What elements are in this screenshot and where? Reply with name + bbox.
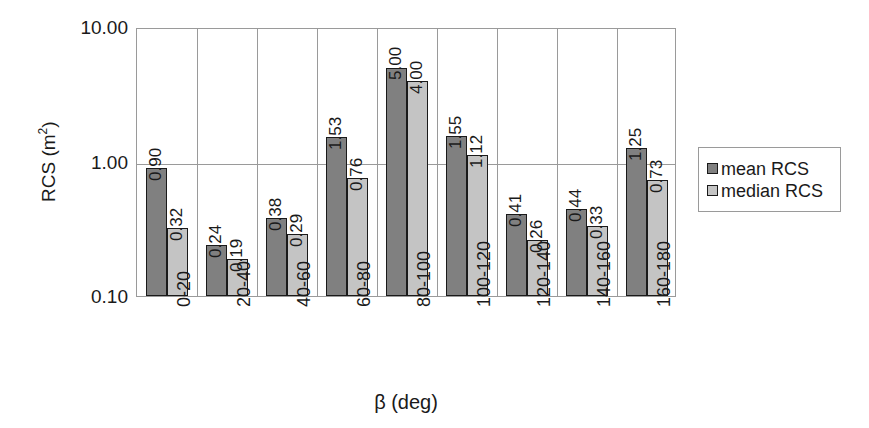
bar-value-label: 0.29 — [288, 214, 305, 247]
legend-item-mean-rcs[interactable]: mean RCS — [707, 159, 834, 178]
bar-value-label: 0.33 — [588, 206, 605, 239]
legend-label-median: median RCS — [721, 182, 823, 200]
legend-swatch-median-icon — [707, 185, 718, 196]
bar-group: 0.900.32 — [137, 29, 197, 296]
y-axis-title-text: RCS (m — [38, 134, 59, 202]
x-axis-tick-label: 60-80 — [355, 261, 373, 307]
bar-value-label: 1.25 — [627, 128, 644, 161]
y-axis-tick-label: 0.10 — [58, 287, 128, 306]
x-axis-tick-label: 80-100 — [415, 251, 433, 307]
bar-value-label: 1.55 — [447, 116, 464, 149]
bar-group: 0.380.29 — [257, 29, 317, 296]
bar-value-label: 0.38 — [267, 198, 284, 231]
chart-legend: mean RCS median RCS — [698, 147, 841, 212]
x-axis-tick-label: 0-20 — [175, 271, 193, 307]
bar-value-label: 0.24 — [207, 225, 224, 258]
bar-value-label: 0.44 — [567, 189, 584, 222]
bar-value-label: 0.90 — [147, 148, 164, 181]
rcs-bar-chart: RCS (m2) 10.001.000.10 0.900.320.240.190… — [0, 0, 869, 428]
bar-group: 1.530.76 — [317, 29, 377, 296]
y-axis-title-paren: ) — [38, 121, 59, 127]
bar-value-label: 0.73 — [648, 160, 665, 193]
x-axis-tick-label: 120-140 — [535, 241, 553, 307]
bar-value-label: 1.53 — [327, 117, 344, 150]
x-axis-tick-label: 140-160 — [595, 241, 613, 307]
bar-mean[interactable] — [326, 137, 347, 296]
bar-mean[interactable] — [386, 68, 407, 297]
bar-mean[interactable] — [146, 168, 167, 296]
bar-value-label: 0.41 — [507, 193, 524, 226]
bar-value-label: 0.76 — [348, 157, 365, 190]
bar-value-label: 0.32 — [168, 208, 185, 241]
bar-mean[interactable] — [626, 148, 647, 296]
bar-mean[interactable] — [446, 136, 467, 296]
y-axis-title: RCS (m2) — [36, 92, 59, 232]
x-axis-tick-label: 40-60 — [295, 261, 313, 307]
bar-value-label: 5.00 — [387, 47, 404, 80]
x-axis-tick-label: 20-40 — [235, 261, 253, 307]
bar-group: 0.240.19 — [197, 29, 257, 296]
bar-mean[interactable] — [566, 209, 587, 296]
bar-value-label: 4.00 — [408, 60, 425, 93]
legend-label-mean: mean RCS — [721, 160, 809, 178]
y-axis-title-exponent: 2 — [36, 128, 50, 135]
legend-item-median-rcs[interactable]: median RCS — [707, 181, 834, 200]
x-axis-title: β (deg) — [136, 391, 676, 414]
y-axis-tick-label: 1.00 — [58, 153, 128, 172]
x-axis-tick-label: 100-120 — [475, 241, 493, 307]
y-axis-tick-label: 10.00 — [58, 18, 128, 37]
x-axis-tick-label: 160-180 — [655, 241, 673, 307]
legend-swatch-mean-icon — [707, 163, 718, 174]
bar-value-label: 1.12 — [468, 135, 485, 168]
